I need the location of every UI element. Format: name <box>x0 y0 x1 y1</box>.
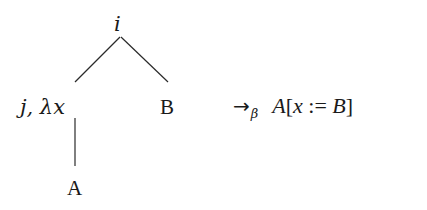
edge-root-left <box>75 37 120 82</box>
result-head: A <box>272 93 285 118</box>
beta-subscript: β <box>251 107 259 120</box>
close-bracket: ] <box>346 93 353 118</box>
beta-reduction-diagram: i j, λx B A → β A[x := B] <box>0 0 427 210</box>
tree-node-leaf-body: A <box>67 178 82 199</box>
substitution-result: A[x := B] <box>272 95 353 117</box>
result-argument: B <box>332 93 345 118</box>
beta-reduction-rule: → β A[x := B] <box>233 95 353 117</box>
result-variable: x <box>293 93 303 118</box>
tree-node-root: i <box>114 14 121 35</box>
open-bracket: [ <box>286 93 293 118</box>
tree-node-right-argument: B <box>160 97 174 118</box>
assign-operator: := <box>303 93 333 118</box>
edge-root-right <box>121 37 168 82</box>
tree-node-left-abstraction: j, λx <box>20 97 65 118</box>
reduction-arrow-icon: → <box>233 96 250 116</box>
